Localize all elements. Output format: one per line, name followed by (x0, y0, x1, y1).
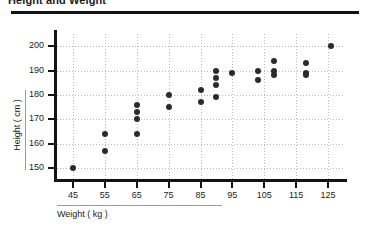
gridline-horizontal (57, 119, 344, 120)
data-point (229, 70, 235, 76)
data-point (70, 165, 76, 171)
gridline-horizontal (57, 95, 344, 96)
data-point (102, 148, 108, 154)
x-axis-tick (231, 182, 233, 188)
scatter-chart-figure: Height and Weight Height ( cm ) Weight (… (0, 0, 367, 229)
x-axis-tick (136, 182, 138, 188)
data-point (303, 72, 309, 78)
data-point (166, 92, 172, 98)
y-axis-tick-label: 190 (14, 65, 44, 75)
x-axis-tick-label: 55 (90, 190, 120, 200)
y-axis-tick (48, 118, 54, 120)
y-axis-tick-label: 160 (14, 138, 44, 148)
x-axis-label: Weight ( kg ) (57, 209, 108, 219)
x-axis-tick (168, 182, 170, 188)
x-axis-tick-label: 95 (217, 190, 247, 200)
y-axis-label-rule (25, 90, 26, 170)
y-axis-tick (48, 167, 54, 169)
data-point (134, 109, 140, 115)
data-point (328, 43, 334, 49)
x-axis-tick (104, 182, 106, 188)
x-axis-tick-label: 115 (281, 190, 311, 200)
y-axis-tick (48, 45, 54, 47)
data-point (102, 131, 108, 137)
x-axis-tick (72, 182, 74, 188)
gridline-horizontal (57, 46, 344, 47)
y-axis-tick-label: 170 (14, 113, 44, 123)
x-axis-tick-label: 65 (122, 190, 152, 200)
data-point (255, 77, 261, 83)
title-divider (11, 11, 359, 14)
data-point (213, 82, 219, 88)
x-axis-tick (263, 182, 265, 188)
x-axis-tick (327, 182, 329, 188)
data-point (271, 72, 277, 78)
chart-title: Height and Weight (8, 0, 106, 6)
gridline-horizontal (57, 144, 344, 145)
gridline-horizontal (57, 168, 344, 169)
x-axis-tick (200, 182, 202, 188)
x-axis-tick-label: 125 (313, 190, 343, 200)
y-axis-tick-label: 200 (14, 40, 44, 50)
gridline-horizontal (57, 71, 344, 72)
data-point (166, 104, 172, 110)
data-point (134, 131, 140, 137)
gridline-vertical (264, 34, 265, 180)
y-axis-tick (48, 70, 54, 72)
gridline-vertical (296, 34, 297, 180)
data-point (198, 99, 204, 105)
x-axis-tick (295, 182, 297, 188)
data-point (134, 102, 140, 108)
gridline-vertical (201, 34, 202, 180)
data-point (198, 87, 204, 93)
y-axis-tick-label: 180 (14, 89, 44, 99)
data-point (303, 60, 309, 66)
data-point (255, 68, 261, 74)
x-axis-label-rule (57, 205, 222, 206)
plot-area (57, 34, 344, 180)
y-axis-tick (48, 143, 54, 145)
gridline-vertical (328, 34, 329, 180)
data-point (134, 116, 140, 122)
data-point (213, 75, 219, 81)
data-point (271, 58, 277, 64)
x-axis-tick-label: 105 (249, 190, 279, 200)
gridline-vertical (105, 34, 106, 180)
y-axis-tick-label: 150 (14, 162, 44, 172)
gridline-vertical (73, 34, 74, 180)
x-axis-tick-label: 75 (154, 190, 184, 200)
y-axis-tick (48, 94, 54, 96)
x-axis-tick-label: 85 (186, 190, 216, 200)
x-axis-tick-label: 45 (58, 190, 88, 200)
gridline-vertical (232, 34, 233, 180)
data-point (213, 68, 219, 74)
data-point (213, 94, 219, 100)
